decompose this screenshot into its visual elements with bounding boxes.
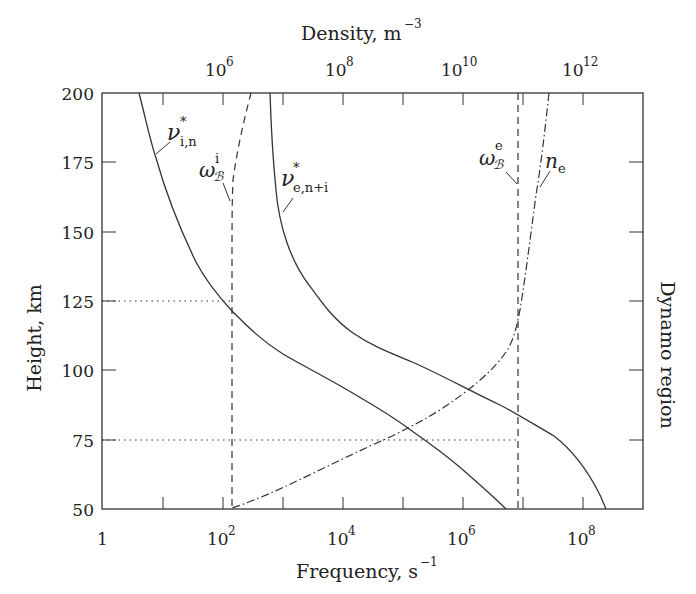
- svg-text:1: 1: [97, 529, 108, 549]
- plot-frame: [102, 93, 643, 509]
- svg-text:i,n: i,n: [180, 134, 197, 149]
- right-axis-label: Dynamo region: [657, 281, 679, 428]
- svg-text:8: 8: [588, 524, 596, 538]
- svg-text:10: 10: [441, 60, 463, 80]
- svg-text:10: 10: [562, 60, 584, 80]
- svg-text:10: 10: [462, 55, 477, 69]
- y-tick-labels: 200 175 150 125 100 75 50: [62, 84, 94, 520]
- svg-text:10: 10: [447, 529, 469, 549]
- svg-text:150: 150: [62, 223, 94, 243]
- svg-text:Frequency, s: Frequency, s: [296, 560, 418, 582]
- svg-text:e,n+i: e,n+i: [293, 180, 328, 195]
- label-nu-e-n-i: ν * e,n+i: [281, 160, 328, 195]
- top-x-tick-labels: 106 108 1010 1012: [205, 55, 598, 80]
- svg-text:10: 10: [567, 529, 589, 549]
- label-omega-b-e: ω e ℬ: [479, 138, 504, 172]
- y-axis-title: Height, km: [23, 284, 45, 392]
- y-ticks-right: [629, 162, 643, 440]
- label-n-e: n e: [545, 149, 566, 176]
- label-nu-i-n: ν * i,n: [167, 114, 197, 149]
- svg-text:*: *: [180, 114, 187, 129]
- svg-text:4: 4: [348, 524, 356, 538]
- svg-text:10: 10: [325, 60, 347, 80]
- svg-text:2: 2: [228, 524, 236, 538]
- svg-text:12: 12: [583, 55, 598, 69]
- label-omega-b-i: ω i ℬ: [199, 151, 224, 184]
- svg-text:e: e: [558, 161, 566, 176]
- svg-text:ν: ν: [167, 120, 180, 145]
- svg-text:6: 6: [468, 524, 476, 538]
- svg-text:ℬ: ℬ: [213, 169, 224, 184]
- svg-text:10: 10: [207, 529, 229, 549]
- svg-text:10: 10: [205, 60, 227, 80]
- svg-text:100: 100: [62, 361, 94, 381]
- svg-text:*: *: [293, 160, 300, 175]
- svg-text:75: 75: [72, 431, 94, 451]
- svg-text:10: 10: [327, 529, 349, 549]
- svg-text:Density, m: Density, m: [301, 22, 401, 44]
- svg-text:50: 50: [72, 500, 94, 520]
- curve-omega-b-i: [232, 93, 251, 509]
- svg-text:6: 6: [226, 55, 234, 69]
- svg-text:i: i: [215, 151, 219, 166]
- svg-text:125: 125: [62, 292, 94, 312]
- svg-text:8: 8: [346, 55, 354, 69]
- svg-text:n: n: [545, 149, 558, 173]
- svg-text:−3: −3: [404, 17, 422, 31]
- x-ticks-bottom: [163, 497, 583, 509]
- svg-text:175: 175: [62, 153, 94, 173]
- svg-text:200: 200: [62, 84, 94, 104]
- svg-text:e: e: [495, 138, 503, 153]
- x-ticks-top: [163, 93, 583, 105]
- top-axis-title: Density, m −3: [301, 17, 422, 44]
- chart: ν * i,n ω i ℬ ν * e,n+i ω e ℬ n e 200 17…: [0, 0, 696, 594]
- svg-text:ℬ: ℬ: [493, 157, 504, 172]
- x-tick-labels: 1 102 104 106 108: [97, 524, 596, 549]
- curve-n-e: [232, 93, 549, 508]
- x-axis-title: Frequency, s −1: [296, 555, 438, 582]
- curve-nu-i-n: [139, 93, 506, 509]
- svg-text:−1: −1: [420, 555, 438, 569]
